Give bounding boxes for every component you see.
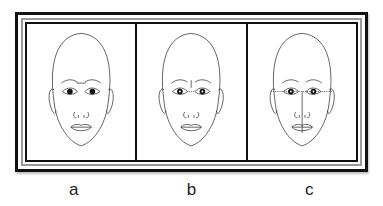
panel-label-a: a	[15, 180, 133, 200]
face-drawing-a-icon	[27, 24, 135, 160]
face-drawing-b-icon	[137, 24, 245, 160]
panel-a	[27, 24, 135, 160]
panel-row	[25, 22, 358, 162]
figure-frame	[15, 12, 368, 172]
panel-labels: a b c	[15, 180, 368, 200]
panel-c	[246, 24, 356, 160]
frame-inner-border	[21, 18, 362, 166]
panel-label-c: c	[250, 180, 368, 200]
panel-b	[135, 24, 245, 160]
face-drawing-c-icon	[248, 24, 356, 160]
panel-label-b: b	[133, 180, 251, 200]
